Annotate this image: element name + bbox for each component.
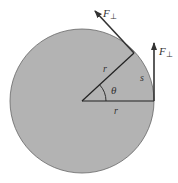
rotation-diagram: F⊥ F⊥ r r θ s [0, 0, 178, 183]
force-vertical-label: F⊥ [158, 45, 173, 59]
angle-label: θ [111, 84, 117, 96]
force-tangent-label: F⊥ [102, 7, 117, 21]
radius-upper-label: r [103, 63, 107, 74]
arc-label: s [140, 72, 144, 83]
radius-lower-label: r [114, 105, 118, 116]
